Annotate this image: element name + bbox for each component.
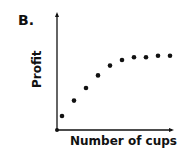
- data-points: [60, 54, 173, 119]
- data-point: [60, 114, 65, 119]
- data-point: [96, 73, 101, 78]
- data-point: [84, 86, 89, 91]
- data-point: [120, 58, 125, 63]
- data-point: [144, 55, 149, 60]
- data-point: [132, 55, 137, 60]
- data-point: [108, 63, 113, 68]
- data-point: [168, 54, 173, 59]
- data-point: [72, 98, 77, 103]
- data-point: [156, 54, 161, 59]
- scatter-plot: [0, 0, 179, 157]
